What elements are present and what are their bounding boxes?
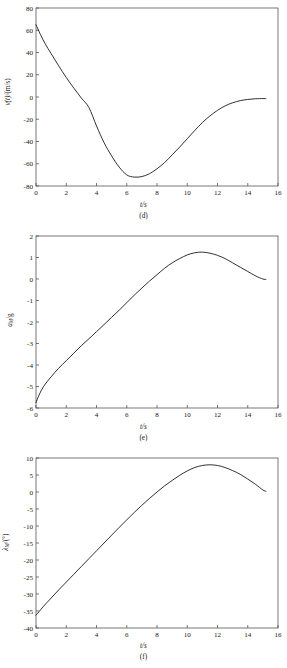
svg-text:8: 8 <box>155 631 159 639</box>
svg-text:-80: -80 <box>24 183 34 191</box>
panel-caption-e-text: (e) <box>139 433 147 442</box>
panel-caption-f-text: (f) <box>140 652 147 661</box>
x-axis-label-e: t/s <box>0 422 287 431</box>
svg-text:-1: -1 <box>27 297 33 305</box>
svg-text:-35: -35 <box>24 608 34 616</box>
series-line <box>36 465 266 615</box>
x-axis-label-d: t/s <box>0 200 287 209</box>
chart-svg-d: 0246810121416-80-60-40-20020406080 <box>0 0 287 205</box>
y-axis-label-f: λM/(°) <box>0 538 34 546</box>
svg-text:-25: -25 <box>24 574 34 582</box>
svg-text:80: 80 <box>26 5 34 13</box>
svg-text:12: 12 <box>214 631 222 639</box>
x-axis-label-f-text: t/s <box>140 641 147 650</box>
svg-text:-30: -30 <box>24 591 34 599</box>
svg-text:0: 0 <box>34 631 38 639</box>
svg-text:0: 0 <box>34 189 38 197</box>
svg-text:6: 6 <box>125 189 129 197</box>
svg-text:4: 4 <box>95 631 99 639</box>
y-axis-label-f-post: /(°) <box>2 534 10 544</box>
svg-text:10: 10 <box>184 411 192 419</box>
svg-text:14: 14 <box>244 411 252 419</box>
svg-text:14: 14 <box>244 631 252 639</box>
panel-caption-f: (f) <box>0 652 287 661</box>
svg-text:-20: -20 <box>24 116 34 124</box>
y-axis-label-f-pre: λ <box>2 548 10 551</box>
svg-text:10: 10 <box>26 455 34 463</box>
svg-text:2: 2 <box>64 631 68 639</box>
panel-caption-e: (e) <box>0 433 287 442</box>
y-axis-label-e-post: /g <box>6 313 14 319</box>
svg-text:0: 0 <box>34 411 38 419</box>
chart-panel-f: 0246810121416-40-35-30-25-20-15-10-50510… <box>0 450 287 668</box>
svg-text:4: 4 <box>95 189 99 197</box>
y-axis-label-e-pre: a <box>6 323 14 327</box>
svg-text:0: 0 <box>29 489 33 497</box>
svg-text:12: 12 <box>214 189 222 197</box>
x-axis-label-d-text: t/s <box>140 200 147 209</box>
x-axis-label-f: t/s <box>0 641 287 650</box>
svg-text:6: 6 <box>125 631 129 639</box>
svg-text:20: 20 <box>26 71 34 79</box>
panel-caption-d: (d) <box>0 211 287 220</box>
svg-text:-10: -10 <box>24 523 34 531</box>
svg-text:4: 4 <box>95 411 99 419</box>
y-axis-label-e-sub: M <box>8 319 14 323</box>
y-axis-label-e: aM/g <box>0 316 38 324</box>
svg-text:-20: -20 <box>24 557 34 565</box>
series-line <box>36 25 266 178</box>
svg-text:2: 2 <box>29 233 33 241</box>
svg-text:-6: -6 <box>27 405 33 413</box>
svg-text:-3: -3 <box>27 340 33 348</box>
y-axis-label-d-post: /(m/s) <box>4 78 12 95</box>
svg-text:8: 8 <box>155 411 159 419</box>
plot-area-d: 0246810121416-80-60-40-20020406080 <box>0 0 287 205</box>
y-axis-label-d-pre: v <box>4 102 12 105</box>
svg-text:-5: -5 <box>27 383 33 391</box>
svg-text:10: 10 <box>184 631 192 639</box>
svg-text:16: 16 <box>274 631 282 639</box>
svg-text:14: 14 <box>244 189 252 197</box>
svg-text:6: 6 <box>125 411 129 419</box>
figure-stack: 0246810121416-80-60-40-20020406080 v(t)/… <box>0 0 287 668</box>
svg-text:10: 10 <box>184 189 192 197</box>
chart-panel-e: 0246810121416-6-5-4-3-2-1012 aM/g t/s (e… <box>0 228 287 450</box>
svg-text:-4: -4 <box>27 362 33 370</box>
svg-text:-60: -60 <box>24 160 34 168</box>
svg-text:12: 12 <box>214 411 222 419</box>
y-axis-label-d: v(t)/(m/s) <box>0 88 38 96</box>
svg-text:-40: -40 <box>24 625 34 633</box>
svg-text:-5: -5 <box>27 506 33 514</box>
svg-text:-40: -40 <box>24 138 34 146</box>
plot-area-f: 0246810121416-40-35-30-25-20-15-10-50510 <box>0 450 287 646</box>
svg-text:40: 40 <box>26 49 34 57</box>
svg-text:16: 16 <box>274 411 282 419</box>
svg-text:16: 16 <box>274 189 282 197</box>
svg-text:0: 0 <box>29 276 33 284</box>
svg-text:60: 60 <box>26 27 34 35</box>
chart-svg-e: 0246810121416-6-5-4-3-2-1012 <box>0 228 287 426</box>
x-axis-label-e-text: t/s <box>140 422 147 431</box>
svg-text:5: 5 <box>29 472 33 480</box>
svg-text:1: 1 <box>29 254 33 262</box>
y-axis-label-f-sub: M <box>4 543 10 547</box>
y-axis-label-d-var: (t) <box>4 96 12 103</box>
svg-text:2: 2 <box>64 189 68 197</box>
series-line <box>36 252 266 403</box>
chart-panel-d: 0246810121416-80-60-40-20020406080 v(t)/… <box>0 0 287 228</box>
svg-text:2: 2 <box>64 411 68 419</box>
svg-text:8: 8 <box>155 189 159 197</box>
chart-svg-f: 0246810121416-40-35-30-25-20-15-10-50510 <box>0 450 287 646</box>
plot-area-e: 0246810121416-6-5-4-3-2-1012 <box>0 228 287 426</box>
panel-caption-d-text: (d) <box>139 211 148 220</box>
